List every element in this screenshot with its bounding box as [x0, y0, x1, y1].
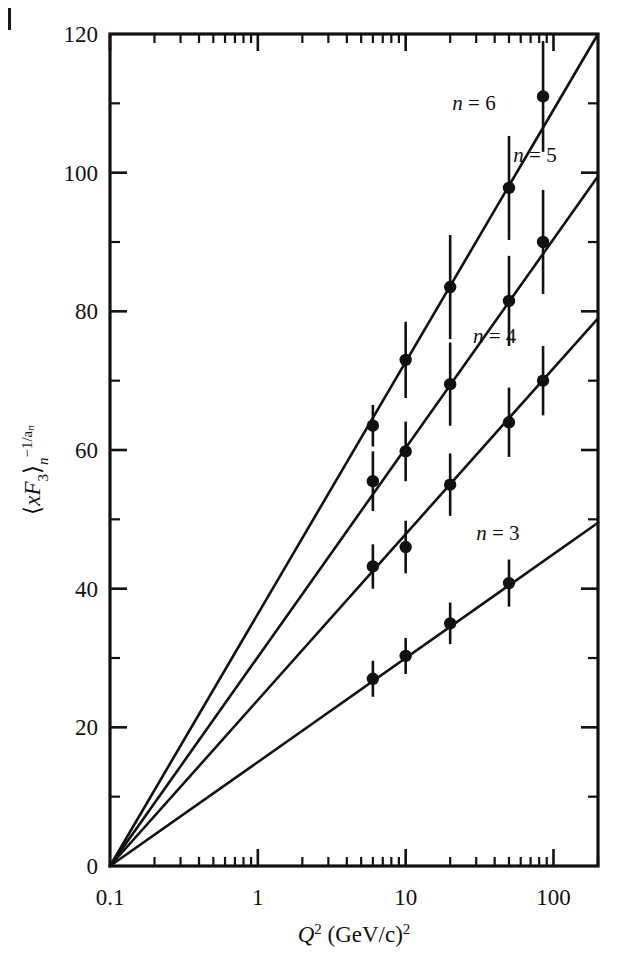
figure-panel: 0.1110100 020406080100120 n = 3n = 4n = …	[0, 0, 632, 970]
data-point	[444, 378, 456, 390]
x-axis-title: Q2 (GeV/c)2	[298, 921, 411, 947]
data-point	[367, 420, 379, 432]
data-point	[444, 478, 456, 490]
data-point	[444, 281, 456, 293]
data-point	[537, 90, 549, 102]
series-label: n = 6	[452, 91, 495, 115]
svg-text:n = 6: n = 6	[452, 91, 495, 115]
fit-line	[110, 176, 598, 866]
svg-text:n = 5: n = 5	[513, 143, 556, 167]
data-point	[503, 182, 515, 194]
y-tick-label: 40	[75, 577, 98, 602]
data-points	[367, 90, 550, 685]
series-label: n = 4	[473, 324, 517, 348]
data-point	[399, 541, 411, 553]
data-point	[367, 673, 379, 685]
data-point	[537, 374, 549, 386]
y-tick-label: 0	[87, 854, 99, 879]
svg-text:n = 3: n = 3	[476, 521, 519, 545]
x-tick-label: 0.1	[96, 885, 125, 910]
data-point	[537, 236, 549, 248]
svg-text:n = 4: n = 4	[473, 324, 517, 348]
y-tick-label: 60	[75, 438, 98, 463]
x-tick-label: 1	[252, 885, 264, 910]
y-tick-label: 100	[64, 161, 99, 186]
data-point	[444, 617, 456, 629]
data-point	[503, 577, 515, 589]
fit-line	[110, 523, 598, 866]
series-annotations: n = 3n = 4n = 5n = 6	[452, 91, 556, 545]
y-tick-label: 80	[75, 299, 98, 324]
data-point	[367, 475, 379, 487]
data-point	[399, 354, 411, 366]
x-tick-label: 10	[394, 885, 417, 910]
data-point	[367, 560, 379, 572]
y-tick-label: 20	[75, 715, 98, 740]
y-axis-title: ⟨xF3⟩n−1/an	[19, 425, 51, 515]
series-label: n = 3	[476, 521, 519, 545]
fit-line	[110, 318, 598, 866]
svg-text:⟨xF3⟩n−1/an: ⟨xF3⟩n−1/an	[19, 425, 51, 515]
x-axis-tick-labels: 0.1110100	[96, 885, 571, 910]
error-bars	[373, 41, 543, 697]
chart-canvas: 0.1110100 020406080100120 n = 3n = 4n = …	[0, 0, 632, 970]
data-point	[399, 650, 411, 662]
y-tick-label: 120	[64, 22, 99, 47]
series-label: n = 5	[513, 143, 556, 167]
x-tick-label: 100	[536, 885, 571, 910]
y-axis-tick-labels: 020406080100120	[64, 22, 99, 879]
data-point	[399, 445, 411, 457]
data-point	[503, 295, 515, 307]
data-point	[503, 416, 515, 428]
